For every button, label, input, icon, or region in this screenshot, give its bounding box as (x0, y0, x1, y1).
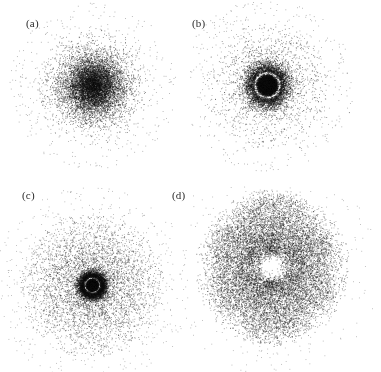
figure-canvas-area: (a) (b) (c) (d) (0, 0, 381, 372)
panel-d-label: (d) (172, 190, 185, 201)
panel-d (190, 186, 381, 372)
panel-b-label: (b) (192, 18, 205, 29)
panel-c (0, 186, 190, 372)
panel-a-label: (a) (26, 18, 39, 29)
panel-d-scatter (190, 186, 381, 372)
panel-c-label: (c) (22, 190, 35, 201)
panel-b-scatter (190, 0, 381, 186)
panel-b (190, 0, 381, 186)
panel-c-scatter (0, 186, 190, 372)
